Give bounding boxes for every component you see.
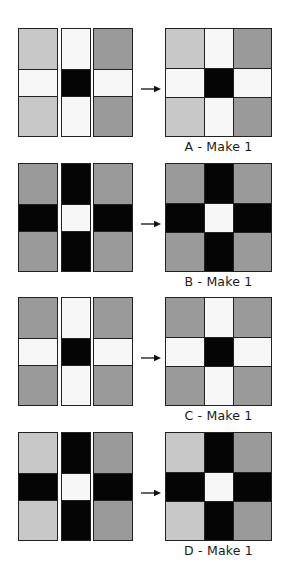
left-strip bbox=[18, 28, 58, 137]
patch-white bbox=[62, 96, 90, 136]
patch-dark bbox=[234, 502, 271, 540]
patch-white bbox=[205, 29, 234, 69]
right-arrow-icon bbox=[141, 78, 161, 86]
patch-white bbox=[205, 367, 234, 405]
patch-dark bbox=[94, 29, 132, 69]
patch-black bbox=[62, 164, 90, 204]
patch-light bbox=[19, 500, 57, 540]
patch-light bbox=[166, 433, 205, 473]
block-label: C - Make 1 bbox=[165, 408, 272, 423]
patch-light bbox=[166, 29, 205, 69]
middle-strip bbox=[61, 163, 91, 272]
patch-white bbox=[62, 204, 90, 231]
middle-strip bbox=[61, 432, 91, 541]
left-strip bbox=[18, 297, 58, 406]
patch-dark bbox=[166, 233, 205, 271]
patch-black bbox=[166, 473, 205, 502]
patch-black bbox=[62, 338, 90, 365]
patch-black bbox=[205, 164, 234, 204]
patch-dark bbox=[234, 433, 271, 473]
patch-dark bbox=[234, 367, 271, 405]
patch-dark bbox=[19, 365, 57, 405]
right-arrow-icon bbox=[141, 213, 161, 221]
unit-d: D - Make 1 bbox=[0, 432, 294, 567]
patch-white bbox=[205, 298, 234, 338]
block-label: B - Make 1 bbox=[165, 274, 272, 289]
left-strip bbox=[18, 163, 58, 272]
patch-dark bbox=[19, 231, 57, 271]
patch-white bbox=[19, 338, 57, 365]
right-strip bbox=[93, 163, 133, 272]
patch-white bbox=[166, 69, 205, 98]
right-strip bbox=[93, 297, 133, 406]
block-label: D - Make 1 bbox=[165, 543, 272, 558]
patch-white bbox=[19, 69, 57, 96]
patch-black bbox=[62, 500, 90, 540]
patch-dark bbox=[234, 98, 271, 136]
unit-c: C - Make 1 bbox=[0, 297, 294, 432]
patch-dark bbox=[94, 96, 132, 136]
patch-light bbox=[19, 29, 57, 69]
patch-black bbox=[205, 69, 234, 98]
patch-white bbox=[205, 204, 234, 233]
patch-dark bbox=[94, 298, 132, 338]
patch-white bbox=[205, 98, 234, 136]
patch-dark bbox=[19, 298, 57, 338]
patch-black bbox=[166, 204, 205, 233]
patch-black bbox=[234, 204, 271, 233]
left-strip bbox=[18, 432, 58, 541]
patch-black bbox=[19, 473, 57, 500]
patch-dark bbox=[19, 164, 57, 204]
patch-black bbox=[62, 231, 90, 271]
patch-light bbox=[19, 96, 57, 136]
unit-a: A - Make 1 bbox=[0, 28, 294, 163]
patch-black bbox=[62, 69, 90, 96]
patch-black bbox=[205, 502, 234, 540]
assembled-block bbox=[165, 297, 272, 406]
patch-dark bbox=[94, 231, 132, 271]
patch-dark bbox=[94, 500, 132, 540]
assembled-block bbox=[165, 432, 272, 541]
patch-black bbox=[205, 338, 234, 367]
patch-dark bbox=[94, 433, 132, 473]
patch-white bbox=[166, 338, 205, 367]
patch-black bbox=[234, 473, 271, 502]
patch-black bbox=[205, 433, 234, 473]
patch-white bbox=[62, 29, 90, 69]
block-label: A - Make 1 bbox=[165, 139, 272, 154]
patch-dark bbox=[234, 233, 271, 271]
patch-dark bbox=[234, 29, 271, 69]
patch-white bbox=[234, 338, 271, 367]
patch-dark bbox=[166, 298, 205, 338]
patch-black bbox=[62, 433, 90, 473]
patch-white bbox=[94, 69, 132, 96]
assembled-block bbox=[165, 28, 272, 137]
patch-light bbox=[166, 502, 205, 540]
patch-black bbox=[94, 473, 132, 500]
patch-white bbox=[94, 338, 132, 365]
right-arrow-icon bbox=[141, 482, 161, 490]
patch-white bbox=[205, 473, 234, 502]
patch-black bbox=[94, 204, 132, 231]
right-arrow-icon bbox=[141, 347, 161, 355]
patch-dark bbox=[234, 164, 271, 204]
patch-black bbox=[205, 233, 234, 271]
unit-b: B - Make 1 bbox=[0, 163, 294, 298]
right-strip bbox=[93, 432, 133, 541]
patch-dark bbox=[166, 367, 205, 405]
patch-white bbox=[62, 365, 90, 405]
patch-white bbox=[62, 298, 90, 338]
middle-strip bbox=[61, 28, 91, 137]
patch-white bbox=[62, 473, 90, 500]
patch-dark bbox=[94, 365, 132, 405]
right-strip bbox=[93, 28, 133, 137]
patch-light bbox=[166, 98, 205, 136]
patch-black bbox=[19, 204, 57, 231]
patch-dark bbox=[234, 298, 271, 338]
patch-dark bbox=[94, 164, 132, 204]
patch-light bbox=[19, 433, 57, 473]
assembled-block bbox=[165, 163, 272, 272]
patch-white bbox=[234, 69, 271, 98]
patch-dark bbox=[166, 164, 205, 204]
middle-strip bbox=[61, 297, 91, 406]
